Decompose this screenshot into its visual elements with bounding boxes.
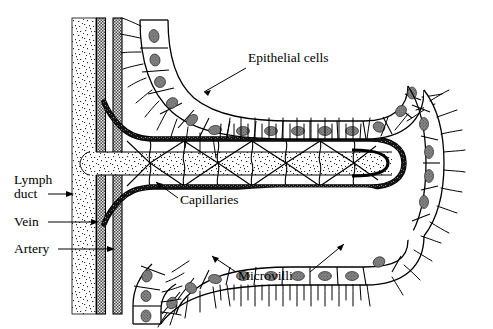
microvilli-label: Microvilli [238,268,293,283]
villus-diagram: Epithelial cells Capillaries Microvilli … [0,0,493,329]
lymph-duct-label-line2: duct [14,186,37,201]
central-lacteal [80,152,392,175]
lymph-duct-label-line1: Lymph [14,172,53,187]
capillaries-label: Capillaries [180,192,238,207]
artery-label: Artery [14,241,49,256]
epithelial-cells-label: Epithelial cells [248,50,329,65]
vein-label: Vein [14,214,39,229]
diagram-canvas: Epithelial cells Capillaries Microvilli … [0,0,493,329]
